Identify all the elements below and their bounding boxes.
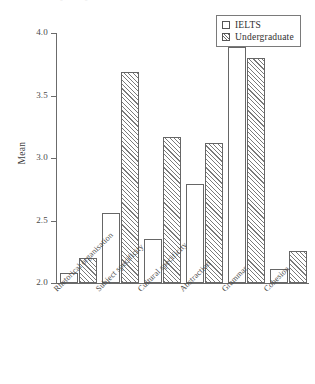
legend-entry-undergraduate: Undergraduate [222, 31, 294, 43]
legend-label-undergraduate: Undergraduate [235, 32, 294, 42]
y-axis-tick-label: 2.0 [8, 278, 48, 287]
y-axis-tick-label: 3.0 [8, 153, 48, 162]
hatched-square-swatch-icon [222, 33, 230, 41]
bar-chart: ▫ ▫ Mean 2.02.53.03.54.0 Rhetorical orga… [0, 0, 315, 384]
bar-undergraduate [289, 251, 307, 284]
open-square-swatch-icon [222, 21, 230, 29]
bar-undergraduate [247, 58, 265, 283]
y-axis-tick-label: 3.5 [8, 91, 48, 100]
y-axis-tick-label: 4.0 [8, 28, 48, 37]
legend-label-ielts: IELTS [235, 20, 261, 30]
cropped-caption-remnant: ▫ ▫ [0, 0, 315, 7]
y-axis-tick-label: 2.5 [8, 216, 48, 225]
caption-remnant-text: ▫ ▫ [60, 0, 98, 4]
bar-ielts [228, 47, 246, 283]
legend: IELTS Undergraduate [216, 15, 301, 47]
legend-entry-ielts: IELTS [222, 19, 294, 31]
